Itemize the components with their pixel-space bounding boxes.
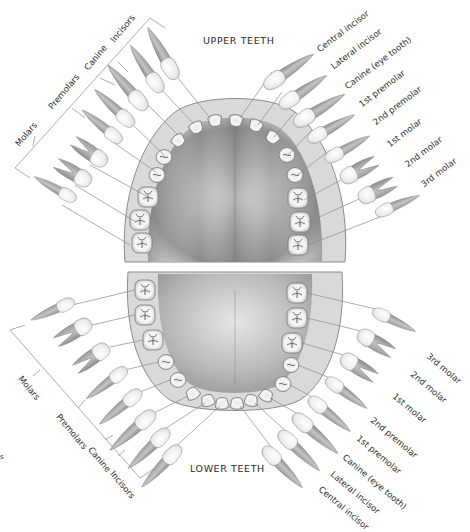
clipped-text-fragment: s	[0, 452, 4, 462]
lower-arch	[127, 272, 342, 411]
upper-arch	[124, 99, 346, 263]
upper-teeth-title: UPPER TEETH	[203, 35, 274, 46]
lower-teeth-title: LOWER TEETH	[190, 463, 265, 474]
